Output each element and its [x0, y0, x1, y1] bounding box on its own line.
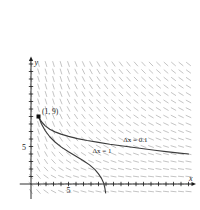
axes — [20, 57, 196, 200]
slope-dash — [53, 61, 55, 67]
slope-dash — [186, 70, 191, 74]
slope-dash — [67, 106, 70, 111]
slope-dash — [148, 153, 154, 155]
slope-dash — [156, 168, 162, 169]
slope-dash — [134, 84, 138, 88]
slope-dash — [163, 169, 169, 170]
slope-dash — [156, 77, 161, 81]
slope-dash — [89, 107, 93, 112]
slope-dash — [82, 76, 85, 81]
slope-dash — [186, 85, 191, 88]
slope-dash — [38, 136, 40, 142]
slope-dash — [67, 99, 70, 104]
slope-dash — [141, 77, 145, 81]
slope-dash — [75, 84, 78, 89]
slope-dash — [104, 130, 109, 134]
slope-dash — [171, 169, 177, 170]
slope-dash — [149, 92, 154, 96]
slope-dash — [141, 69, 145, 73]
slope-dash — [38, 106, 40, 112]
slope-dash — [126, 176, 132, 177]
slope-dash — [119, 107, 124, 111]
slope-dash — [163, 130, 169, 132]
slope-dash — [119, 62, 123, 67]
slope-dash — [37, 159, 40, 164]
slope-dash — [82, 99, 85, 104]
slope-dash — [118, 176, 124, 177]
slope-dash — [156, 115, 161, 118]
slope-dash — [186, 146, 192, 148]
slope-dash — [141, 123, 146, 126]
slope-dash — [126, 130, 131, 133]
slope-dash — [58, 175, 64, 177]
curve-label-dx-0-1: Δx = 0.1 — [123, 136, 148, 144]
slope-dash — [118, 130, 123, 133]
y-axis-tick-label-5: 5 — [22, 143, 26, 152]
slope-dash — [156, 161, 162, 162]
slope-dash — [149, 100, 154, 104]
slope-dash — [45, 61, 47, 67]
slope-dash — [178, 100, 183, 103]
slope-dash — [156, 130, 161, 132]
slope-dash — [186, 191, 192, 192]
slope-dash — [126, 107, 131, 111]
slope-dash — [118, 168, 124, 169]
slope-dash — [186, 138, 192, 140]
slope-dash — [133, 122, 138, 125]
slope-dash — [90, 69, 93, 74]
slope-dash — [148, 161, 154, 162]
slope-dash — [118, 153, 124, 155]
slope-dash — [82, 61, 85, 66]
slope-dash — [178, 115, 183, 118]
slope-field-figure: x y 5 5 (1, 9) Δx = 0.1 Δx = 1 — [0, 0, 200, 210]
slope-dash — [38, 144, 40, 150]
slope-dash — [60, 76, 62, 82]
slope-dash — [89, 99, 93, 104]
slope-dash — [111, 107, 115, 111]
slope-dash — [118, 161, 124, 163]
slope-dash — [59, 160, 64, 164]
slope-dash — [171, 153, 177, 154]
slope-dash — [163, 115, 168, 118]
slope-dash — [186, 100, 191, 103]
slope-dash — [97, 76, 100, 81]
slope-dash — [36, 174, 40, 178]
slope-dash — [82, 69, 85, 74]
slope-dash — [88, 191, 94, 192]
slope-dash — [148, 123, 153, 126]
slope-dash — [74, 114, 77, 119]
slope-dash — [134, 92, 139, 96]
slope-dash — [163, 123, 168, 126]
slope-dash — [38, 69, 40, 75]
slope-dash — [171, 108, 176, 111]
slope-dash — [104, 69, 107, 74]
slope-dash — [60, 114, 63, 119]
slope-dash — [111, 191, 117, 192]
slope-dash — [38, 84, 40, 90]
slope-dash — [38, 121, 40, 127]
slope-dash — [133, 191, 139, 192]
slope-dash — [81, 129, 85, 133]
slope-dash — [45, 76, 47, 82]
slope-dash — [178, 161, 184, 162]
slope-dash — [67, 129, 71, 134]
plot-canvas: x y 5 5 (1, 9) Δx = 0.1 Δx = 1 — [0, 0, 200, 210]
slope-dash — [96, 137, 101, 141]
slope-dash — [60, 84, 62, 90]
slope-dash — [171, 138, 177, 140]
slope-dash — [60, 99, 62, 105]
slope-dash — [148, 168, 154, 169]
slope-dash — [186, 161, 192, 162]
slope-dash — [89, 76, 92, 81]
slope-dash — [104, 122, 109, 126]
slope-dash — [96, 122, 100, 126]
slope-dash — [44, 159, 47, 164]
slope-dash — [186, 62, 191, 66]
slope-dash — [112, 84, 116, 89]
slope-dash — [97, 99, 101, 104]
slope-dash — [126, 122, 131, 125]
slope-dash — [156, 100, 161, 103]
slope-dash — [51, 167, 56, 171]
curve-label-dx-1: Δx = 1 — [93, 147, 112, 155]
slope-dash — [97, 61, 100, 66]
